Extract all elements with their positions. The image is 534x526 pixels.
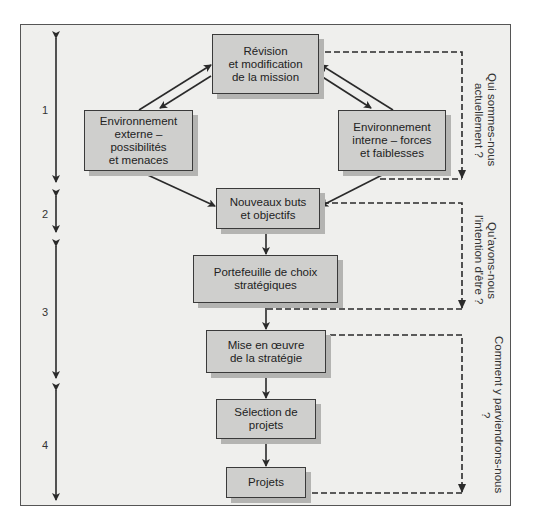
box-external-environment: Environnement externe – possibilités et … bbox=[84, 110, 193, 171]
box-strategic-portfolio: Portefeuille de choix stratégiques bbox=[193, 255, 338, 303]
question-how-will-we-get-there: Comment y parviendrons-nous ? bbox=[479, 335, 505, 495]
bracket-q3 bbox=[330, 335, 462, 492]
box-revision-mission: Révision et modification de la mission bbox=[212, 34, 319, 94]
question-what-do-we-intend: Qu'avons-nous l'intention d'être ? bbox=[472, 205, 498, 315]
phase-label-1: 1 bbox=[42, 104, 48, 116]
phase-label-2: 2 bbox=[42, 208, 48, 220]
box-internal-environment: Environnement interne – forces et faible… bbox=[338, 110, 446, 171]
box-strategy-implementation: Mise en œuvre de la stratégie bbox=[206, 330, 326, 373]
box-new-goals: Nouveaux buts et objectifs bbox=[216, 188, 320, 229]
strategic-planning-diagram: Révision et modification de la mission E… bbox=[0, 0, 534, 526]
bracket-q2 bbox=[323, 203, 462, 308]
phase-label-3: 3 bbox=[42, 306, 48, 318]
box-projects: Projets bbox=[226, 467, 306, 498]
phase-label-4: 4 bbox=[42, 439, 48, 451]
question-who-are-we: Qui sommes-nous actuellement ? bbox=[472, 70, 498, 170]
box-project-selection: Sélection de projets bbox=[216, 399, 316, 439]
